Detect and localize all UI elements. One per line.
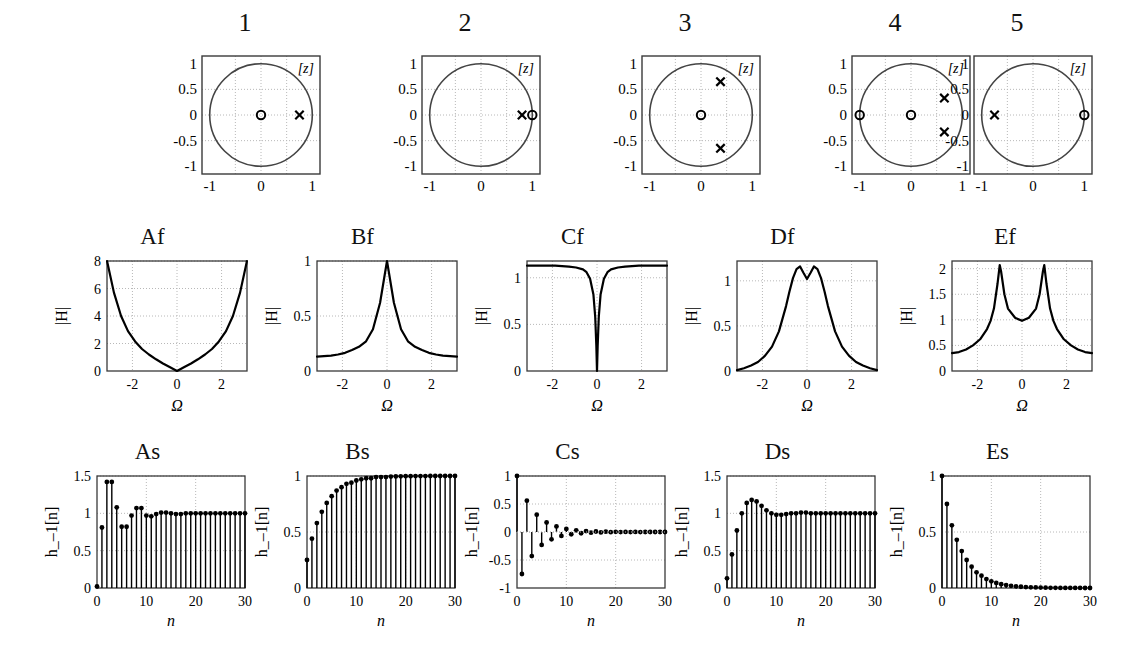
svg-text:0: 0: [514, 364, 521, 379]
svg-text:2: 2: [638, 377, 645, 392]
panel-stem-Bs: Bs 00.510102030nh_–1[n]: [245, 440, 470, 660]
svg-text:-0.5: -0.5: [173, 133, 197, 149]
svg-text:1: 1: [504, 469, 511, 484]
stem-plot: 00.510102030nh_–1[n]: [880, 468, 1115, 656]
panel-title: Df: [675, 225, 890, 248]
svg-text:1: 1: [714, 506, 721, 521]
svg-text:-2: -2: [337, 377, 349, 392]
svg-text:-1: -1: [405, 158, 418, 174]
svg-text:1: 1: [630, 56, 638, 72]
svg-text:0.5: 0.5: [929, 338, 947, 353]
svg-text:-2: -2: [547, 377, 559, 392]
svg-text:2: 2: [1063, 377, 1070, 392]
svg-text:30: 30: [1083, 594, 1097, 609]
svg-text:1: 1: [294, 469, 301, 484]
svg-text:Ω: Ω: [171, 397, 183, 414]
svg-text:-2: -2: [972, 377, 984, 392]
svg-text:20: 20: [819, 594, 833, 609]
svg-text:2: 2: [848, 377, 855, 392]
svg-text:Ω: Ω: [801, 397, 813, 414]
svg-text:1: 1: [309, 178, 317, 194]
svg-text:0: 0: [94, 594, 101, 609]
panel-pz-1: 1 10.50-0.5-1-101[z]: [150, 8, 340, 208]
svg-text:6: 6: [94, 282, 101, 297]
svg-text:0.5: 0.5: [919, 525, 937, 540]
panel-title: 5: [922, 10, 1112, 36]
pole-zero-plot: 10.50-0.5-1-101[z]: [150, 46, 340, 206]
svg-text:0: 0: [939, 364, 946, 379]
panel-title: Cs: [455, 440, 680, 463]
svg-text:1.5: 1.5: [74, 469, 92, 484]
svg-text:1: 1: [410, 56, 418, 72]
panel-mag-Ef: Ef 00.511.52-202Ω|H|: [890, 225, 1120, 430]
svg-text:-2: -2: [127, 377, 139, 392]
svg-text:0: 0: [94, 364, 101, 379]
svg-text:0: 0: [410, 107, 418, 123]
pole-zero-plot: 10.50-0.5-1-101[z]: [370, 46, 560, 206]
svg-text:[z]: [z]: [298, 61, 314, 76]
svg-text:0: 0: [257, 178, 265, 194]
svg-text:n: n: [167, 612, 175, 629]
svg-text:0: 0: [1029, 178, 1037, 194]
svg-text:0.5: 0.5: [398, 81, 417, 97]
panel-stem-Cs: Cs -1-0.500.510102030nh_–1[n]: [455, 440, 680, 660]
svg-text:-1: -1: [835, 158, 848, 174]
panel-stem-Ds: Ds 00.511.50102030nh_–1[n]: [665, 440, 890, 660]
svg-text:|H|: |H|: [53, 307, 71, 325]
svg-text:[z]: [z]: [518, 61, 534, 76]
svg-text:0.5: 0.5: [704, 544, 722, 559]
svg-text:-1: -1: [853, 178, 866, 194]
svg-text:|H|: |H|: [473, 307, 491, 325]
svg-text:-0.5: -0.5: [393, 133, 417, 149]
svg-text:0.5: 0.5: [714, 319, 732, 334]
panel-mag-Af: Af 02468-202Ω|H|: [45, 225, 260, 430]
panel-title: 2: [370, 10, 560, 36]
panel-stem-As: As 00.511.50102030nh_–1[n]: [35, 440, 260, 660]
svg-text:0.5: 0.5: [828, 81, 847, 97]
svg-text:10: 10: [139, 594, 153, 609]
svg-text:0.5: 0.5: [950, 81, 969, 97]
svg-text:1: 1: [840, 56, 848, 72]
svg-text:2: 2: [94, 337, 101, 352]
stem-plot: 00.510102030nh_–1[n]: [245, 468, 470, 656]
svg-text:Ω: Ω: [1016, 397, 1028, 414]
svg-text:-1: -1: [625, 158, 638, 174]
svg-text:0.5: 0.5: [504, 317, 522, 332]
svg-text:0.5: 0.5: [294, 309, 312, 324]
svg-text:-0.5: -0.5: [823, 133, 847, 149]
svg-text:0: 0: [477, 178, 485, 194]
svg-text:0: 0: [84, 581, 91, 596]
svg-text:[z]: [z]: [738, 61, 754, 76]
panel-pz-3: 3 10.50-0.5-1-101[z]: [590, 8, 780, 208]
svg-text:10: 10: [984, 594, 998, 609]
svg-text:2: 2: [428, 377, 435, 392]
svg-text:0: 0: [384, 377, 391, 392]
panel-title: Ef: [890, 225, 1120, 248]
svg-text:h_–1[n]: h_–1[n]: [43, 507, 60, 558]
panel-title: 1: [150, 10, 340, 36]
svg-text:0.5: 0.5: [178, 81, 197, 97]
svg-text:0: 0: [714, 581, 721, 596]
svg-text:1.5: 1.5: [704, 469, 722, 484]
svg-text:0.5: 0.5: [494, 497, 512, 512]
svg-text:4: 4: [94, 309, 101, 324]
svg-text:1: 1: [1081, 178, 1089, 194]
svg-text:10: 10: [769, 594, 783, 609]
svg-text:0.5: 0.5: [74, 544, 92, 559]
svg-text:10: 10: [559, 594, 573, 609]
panel-stem-Es: Es 00.510102030nh_–1[n]: [880, 440, 1115, 660]
svg-text:-0.5: -0.5: [945, 133, 969, 149]
svg-text:0: 0: [504, 525, 511, 540]
panel-mag-Df: Df 00.51-202Ω|H|: [675, 225, 890, 430]
magnitude-plot: 02468-202Ω|H|: [45, 253, 260, 428]
svg-text:0: 0: [630, 107, 638, 123]
stem-plot: -1-0.500.510102030nh_–1[n]: [455, 468, 680, 656]
svg-text:0.5: 0.5: [618, 81, 637, 97]
svg-text:h_–1[n]: h_–1[n]: [253, 507, 270, 558]
svg-text:-1: -1: [185, 158, 198, 174]
pole-zero-plot: 10.50-0.5-1-101[z]: [922, 46, 1112, 206]
svg-text:0: 0: [840, 107, 848, 123]
svg-text:1: 1: [514, 271, 521, 286]
svg-text:1: 1: [190, 56, 198, 72]
panel-mag-Bf: Bf 00.51-202Ω|H|: [255, 225, 470, 430]
